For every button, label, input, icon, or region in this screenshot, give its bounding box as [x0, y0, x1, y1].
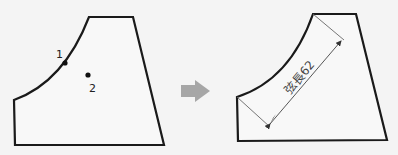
point-2-label: 2 — [89, 82, 96, 95]
after-outline — [237, 14, 387, 141]
point-2-marker — [85, 72, 90, 77]
before-outline — [14, 17, 164, 145]
before-shape: 1 2 — [14, 17, 164, 145]
point-1-marker — [62, 60, 67, 65]
point-1-label: 1 — [56, 48, 63, 61]
after-shape: 弦長62 — [237, 14, 387, 141]
diagram-canvas: 1 2 弦長62 — [0, 0, 398, 155]
right-arrow-icon — [181, 80, 210, 102]
